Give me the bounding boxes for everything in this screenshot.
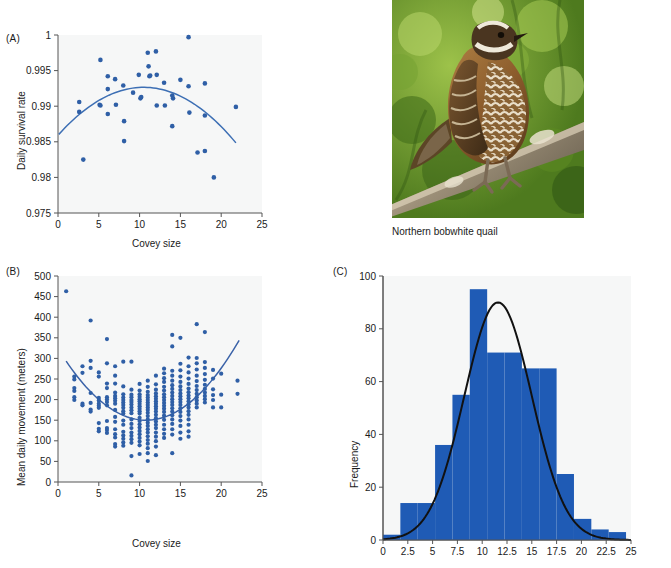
svg-text:0: 0	[370, 535, 376, 546]
svg-text:0.975: 0.975	[26, 208, 51, 219]
svg-text:15: 15	[175, 219, 187, 230]
svg-text:10: 10	[477, 546, 489, 557]
svg-text:250: 250	[34, 374, 51, 385]
svg-text:40: 40	[365, 429, 377, 440]
svg-text:0.985: 0.985	[26, 136, 51, 147]
svg-text:50: 50	[40, 456, 52, 467]
svg-text:300: 300	[34, 353, 51, 364]
svg-text:0: 0	[380, 546, 386, 557]
svg-text:1: 1	[45, 30, 51, 41]
svg-text:15: 15	[175, 488, 187, 499]
svg-text:5: 5	[96, 488, 102, 499]
svg-text:100: 100	[359, 271, 376, 282]
svg-text:25: 25	[256, 219, 268, 230]
panel-b-xlabel: Covey size	[132, 538, 181, 549]
panel-c-label: (C)	[333, 266, 347, 277]
svg-text:5: 5	[430, 546, 436, 557]
panel-b-plot: 0501001502002503003504004505000510152025	[0, 258, 340, 558]
svg-text:200: 200	[34, 394, 51, 405]
svg-text:0.98: 0.98	[32, 172, 52, 183]
svg-text:60: 60	[365, 376, 377, 387]
svg-text:22.5: 22.5	[596, 546, 616, 557]
quail-photo	[392, 0, 584, 218]
panel-c: (C) Frequency 02040608010002.557.51012.5…	[331, 258, 671, 568]
svg-text:500: 500	[34, 271, 51, 282]
svg-text:10: 10	[134, 488, 146, 499]
svg-text:0.995: 0.995	[26, 65, 51, 76]
panel-a-xlabel: Covey size	[132, 238, 181, 249]
svg-text:20: 20	[216, 219, 228, 230]
panel-a-plot: 0.9750.980.9850.990.99510510152025	[0, 0, 340, 258]
svg-text:0: 0	[45, 477, 51, 488]
svg-text:2.5: 2.5	[401, 546, 415, 557]
panel-c-plot: 02040608010002.557.51012.51517.52022.525	[331, 258, 671, 568]
panel-a-label: (A)	[6, 33, 20, 44]
svg-text:0: 0	[55, 219, 61, 230]
svg-text:20: 20	[365, 482, 377, 493]
svg-text:100: 100	[34, 435, 51, 446]
panel-b-ylabel: Mean daily movement (meters)	[16, 348, 27, 486]
svg-text:150: 150	[34, 415, 51, 426]
panel-a: (A) Daily survival rate Covey size 0.975…	[0, 0, 340, 258]
svg-text:15: 15	[526, 546, 538, 557]
quail-photo-block: Northern bobwhite quail	[380, 0, 610, 250]
svg-text:5: 5	[96, 219, 102, 230]
photo-caption: Northern bobwhite quail	[392, 226, 498, 237]
svg-text:25: 25	[256, 488, 268, 499]
svg-text:400: 400	[34, 312, 51, 323]
svg-text:10: 10	[134, 219, 146, 230]
svg-text:20: 20	[576, 546, 588, 557]
svg-text:20: 20	[216, 488, 228, 499]
svg-text:7.5: 7.5	[450, 546, 464, 557]
panel-b: (B) Mean daily movement (meters) Covey s…	[0, 258, 340, 558]
svg-text:25: 25	[625, 546, 637, 557]
svg-text:0.99: 0.99	[32, 101, 52, 112]
multi-panel-figure: (A) Daily survival rate Covey size 0.975…	[0, 0, 671, 568]
svg-text:12.5: 12.5	[497, 546, 517, 557]
quail-photo-image	[392, 0, 584, 218]
svg-text:17.5: 17.5	[547, 546, 567, 557]
svg-text:0: 0	[55, 488, 61, 499]
svg-text:80: 80	[365, 323, 377, 334]
svg-text:350: 350	[34, 332, 51, 343]
panel-c-ylabel: Frequency	[349, 441, 360, 488]
panel-b-label: (B)	[6, 266, 20, 277]
panel-a-ylabel: Daily survival rate	[16, 91, 27, 170]
svg-text:450: 450	[34, 291, 51, 302]
